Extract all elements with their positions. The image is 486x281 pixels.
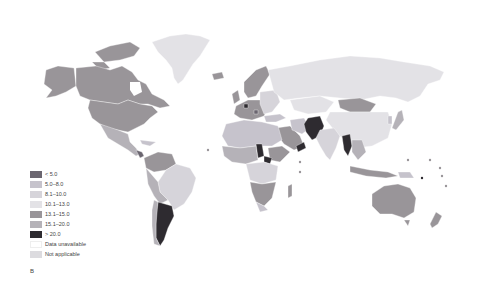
region-europe-dark-2 <box>254 110 258 114</box>
region-europe-dark <box>244 104 248 108</box>
region-greenland <box>152 34 210 84</box>
region-arctic-islands <box>95 42 140 62</box>
region-caribbean <box>140 140 156 146</box>
region-papua <box>398 172 414 178</box>
region-madagascar <box>288 184 292 198</box>
legend-swatch <box>30 241 42 248</box>
panel-label: B <box>30 268 34 274</box>
legend-swatch <box>30 201 42 208</box>
region-australia <box>372 184 416 218</box>
legend-item: Data unavailable <box>30 239 86 249</box>
legend-label: < 5.0 <box>45 171 57 177</box>
region-alaska <box>44 66 76 98</box>
region-west-africa <box>222 146 258 164</box>
legend-item: 5.0–8.0 <box>30 179 86 189</box>
region-central-africa <box>246 162 278 184</box>
legend-label: 15.1–20.0 <box>45 221 69 227</box>
region-usa <box>88 100 158 132</box>
legend-label: Data unavailable <box>45 241 86 247</box>
legend-label: 13.1–15.0 <box>45 211 69 217</box>
legend-swatch <box>30 171 42 178</box>
region-russia <box>268 56 444 102</box>
region-indian-ocean-island <box>299 171 301 173</box>
region-tasmania <box>404 220 410 226</box>
legend-item: 13.1–15.0 <box>30 209 86 219</box>
legend-swatch <box>30 251 42 258</box>
region-indonesia <box>350 166 398 178</box>
legend-swatch <box>30 191 42 198</box>
region-mongolia <box>338 98 376 112</box>
legend-label: > 20.0 <box>45 231 60 237</box>
region-korea <box>388 116 392 124</box>
legend-item: 8.1–10.0 <box>30 189 86 199</box>
legend-swatch <box>30 211 42 218</box>
region-pacific-island <box>445 185 447 187</box>
legend-label: 10.1–13.0 <box>45 201 69 207</box>
legend-label: Not applicable <box>45 251 80 257</box>
region-japan <box>392 110 404 130</box>
region-southern-africa <box>250 182 276 206</box>
legend-item: 15.1–20.0 <box>30 219 86 229</box>
legend-label: 8.1–10.0 <box>45 191 66 197</box>
region-new-zealand <box>430 212 442 228</box>
legend-item: Not applicable <box>30 249 86 259</box>
region-pacific-island <box>441 175 443 177</box>
region-pacific-island <box>407 159 409 161</box>
region-iceland <box>212 72 224 80</box>
legend-swatch <box>30 221 42 228</box>
region-turkey <box>264 114 286 122</box>
legend-item: > 20.0 <box>30 229 86 239</box>
region-atlantic-island <box>207 149 209 151</box>
legend-swatch <box>30 181 42 188</box>
region-uk <box>232 90 240 104</box>
region-pacific-island <box>439 167 441 169</box>
legend-swatch <box>30 231 42 238</box>
region-central-asia <box>290 96 334 114</box>
legend-item: 10.1–13.0 <box>30 199 86 209</box>
region-india <box>316 128 340 160</box>
legend-label: 5.0–8.0 <box>45 181 63 187</box>
region-north-africa <box>222 120 282 148</box>
region-indian-ocean-island <box>299 161 301 163</box>
region-pacific-island <box>421 177 423 179</box>
region-pacific-island <box>429 159 431 161</box>
legend-item: < 5.0 <box>30 169 86 179</box>
region-myanmar <box>342 134 352 156</box>
legend: < 5.0 5.0–8.0 8.1–10.0 10.1–13.0 13.1–15… <box>30 169 86 259</box>
region-argentina <box>156 202 174 246</box>
region-brazil <box>158 164 196 210</box>
